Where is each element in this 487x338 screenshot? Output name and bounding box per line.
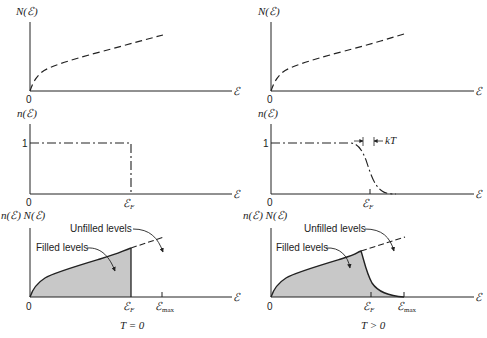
fermi-energy-label: ℰF	[123, 197, 135, 211]
right-caption: T > 0	[361, 319, 386, 331]
filled-region	[271, 251, 404, 297]
max-energy-label: ℰmax	[155, 300, 175, 314]
fermi-energy-label: ℰF	[362, 197, 374, 211]
left-prod-y-label: n(ℰ) N(ℰ)	[1, 209, 46, 222]
right-occupation-panel: n(ℰ) 1 0 ℰ ℰF kT	[258, 107, 483, 211]
x-axis-label: ℰ	[233, 85, 241, 97]
fermi-dirac-diagram: N(ℰ) 0 ℰ n(ℰ) 1 0 ℰ ℰF n(ℰ) N(ℰ) 0 ℰ ℰF …	[0, 0, 487, 338]
x-axis-label: ℰ	[233, 188, 241, 200]
x-axis-label: ℰ	[475, 291, 483, 303]
fermi-dirac-curve	[271, 143, 396, 194]
unfilled-levels-annotation: Unfilled levels	[304, 223, 366, 234]
right-dos-y-label: N(ℰ)	[257, 5, 280, 18]
left-product-panel: n(ℰ) N(ℰ) 0 ℰ ℰF ℰmax Filled levels Unfi…	[1, 209, 241, 331]
dos-curve	[30, 35, 163, 91]
origin-label: 0	[26, 197, 32, 208]
max-energy-label: ℰmax	[397, 300, 417, 314]
right-occ-y-label: n(ℰ)	[258, 107, 278, 120]
left-caption: T = 0	[120, 319, 145, 331]
left-occ-y-label: n(ℰ)	[17, 107, 37, 120]
step-function	[30, 143, 131, 194]
x-axis-label: ℰ	[233, 291, 241, 303]
filled-levels-annotation: Filled levels	[276, 242, 328, 253]
origin-label: 0	[26, 94, 32, 105]
left-dos-panel: N(ℰ) 0 ℰ	[15, 5, 241, 105]
unfilled-curve	[361, 237, 405, 251]
x-axis-label: ℰ	[475, 188, 483, 200]
unfilled-levels-annotation: Unfilled levels	[70, 223, 132, 234]
left-dos-y-label: N(ℰ)	[15, 5, 38, 18]
origin-label: 0	[26, 301, 32, 312]
filled-region	[30, 248, 131, 297]
x-axis-label: ℰ	[475, 85, 483, 97]
dos-curve	[271, 34, 404, 91]
fermi-energy-label: ℰF	[123, 300, 135, 314]
right-product-panel: n(ℰ) N(ℰ) 0 ℰ ℰF ℰmax Filled levels Unfi…	[243, 209, 483, 331]
filled-levels-annotation: Filled levels	[36, 242, 88, 253]
fermi-energy-label: ℰF	[363, 300, 375, 314]
origin-label: 0	[267, 301, 273, 312]
unfilled-arrow	[365, 229, 394, 251]
origin-label: 0	[267, 197, 273, 208]
origin-label: 0	[267, 94, 273, 105]
right-prod-y-label: n(ℰ) N(ℰ)	[243, 209, 288, 222]
unfilled-arrow	[133, 229, 163, 252]
level-one-label: 1	[22, 138, 28, 149]
kt-label: kT	[385, 134, 397, 146]
right-dos-panel: N(ℰ) 0 ℰ	[257, 5, 483, 105]
level-one-label: 1	[263, 138, 269, 149]
left-occupation-panel: n(ℰ) 1 0 ℰ ℰF	[17, 107, 241, 211]
